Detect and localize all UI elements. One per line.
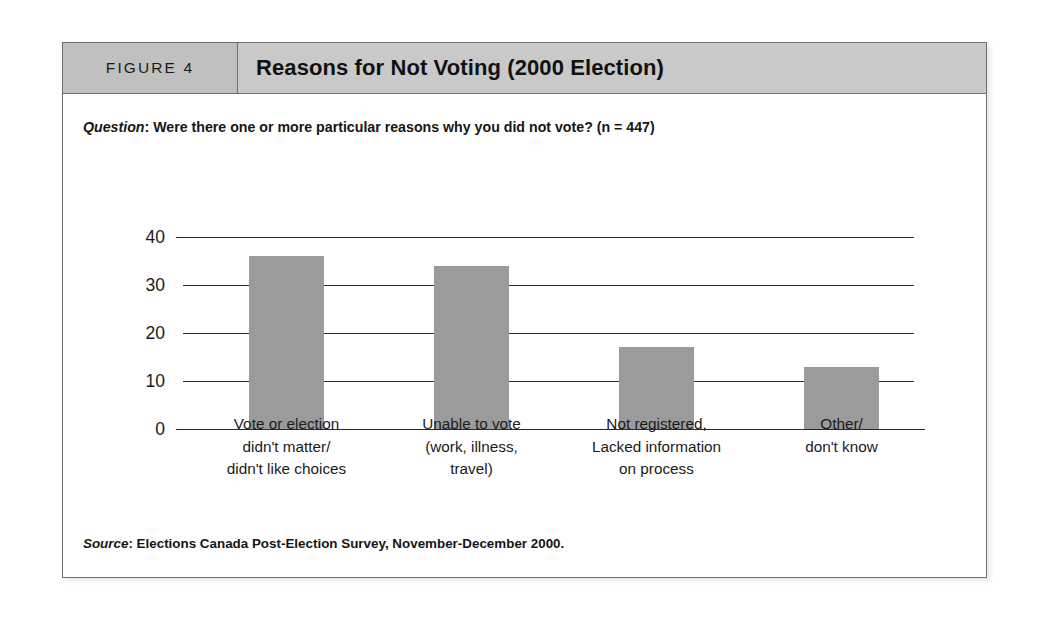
source-line: Source: Elections Canada Post-Election S… [83,536,564,551]
chart-plot-area: 010203040 [63,173,986,443]
chart-category-label-line: on process [546,458,767,481]
figure-title: Reasons for Not Voting (2000 Election) [256,55,664,81]
y-axis-tick-label: 30 [119,275,165,296]
source-text: Elections Canada Post-Election Survey, N… [137,536,565,551]
figure-number-label: FIGURE 4 [106,59,194,77]
chart-category-label-line: don't know [731,436,952,459]
chart-category-labels: Vote or electiondidn't matter/didn't lik… [63,413,986,513]
question-label: Question [83,119,144,135]
figure-container: FIGURE 4 Reasons for Not Voting (2000 El… [62,42,987,578]
source-label: Source [83,536,128,551]
chart-bar [434,266,509,429]
y-axis-tick-label: 10 [119,371,165,392]
chart-bar [249,256,324,429]
y-axis-tick-label: 40 [119,227,165,248]
chart-gridline [176,237,914,238]
question-text: Were there one or more particular reason… [153,119,655,135]
question-separator: : [144,119,153,135]
chart-category-label: Other/don't know [731,413,952,458]
question-line: Question: Were there one or more particu… [83,119,655,135]
source-separator: : [128,536,136,551]
figure-number-box: FIGURE 4 [63,43,238,93]
figure-title-box: Reasons for Not Voting (2000 Election) [238,43,986,93]
chart-category-label-line: Other/ [731,413,952,436]
y-axis-tick-label: 20 [119,323,165,344]
figure-header: FIGURE 4 Reasons for Not Voting (2000 El… [63,43,986,94]
